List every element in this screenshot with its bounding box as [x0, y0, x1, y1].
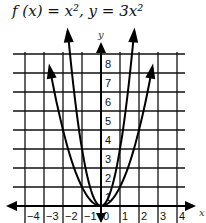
y-tick-label: 5 [105, 115, 111, 127]
y-tick-label: 4 [105, 134, 111, 146]
x-axis-right-arrow-icon [185, 201, 196, 211]
curve-arrow-icon [128, 27, 138, 42]
x-tick-label: 0 [103, 210, 109, 222]
x-tick-label: 1 [122, 210, 128, 222]
x-tick-label: 2 [141, 210, 147, 222]
tick-labels: −4−3−2−10123412345678 [27, 58, 185, 222]
x-tick-label: −3 [46, 210, 59, 222]
curve-arrow-icon [64, 27, 74, 42]
plot-area: xy −4−3−2−10123412345678 [0, 0, 206, 223]
x-tick-label: 3 [160, 210, 166, 222]
curve-arrow-icon [145, 64, 155, 80]
y-tick-label: 2 [105, 172, 111, 184]
x-tick-label: −4 [27, 210, 40, 222]
y-tick-label: 6 [105, 96, 111, 108]
y-axis-up-arrow-icon [96, 42, 106, 53]
x-tick-label: 4 [179, 210, 185, 222]
curve-arrow-icon [47, 64, 57, 80]
grid [13, 52, 185, 223]
x-axis-left-arrow-icon [6, 201, 17, 211]
y-tick-label: 3 [105, 153, 111, 165]
x-tick-label: −2 [65, 210, 78, 222]
x-tick-label: −1 [84, 210, 97, 222]
y-tick-label: 7 [105, 77, 111, 89]
x-axis-label: x [199, 207, 205, 218]
y-tick-label: 1 [105, 191, 111, 203]
y-axis-label: y [97, 29, 104, 40]
y-tick-label: 8 [105, 58, 111, 70]
